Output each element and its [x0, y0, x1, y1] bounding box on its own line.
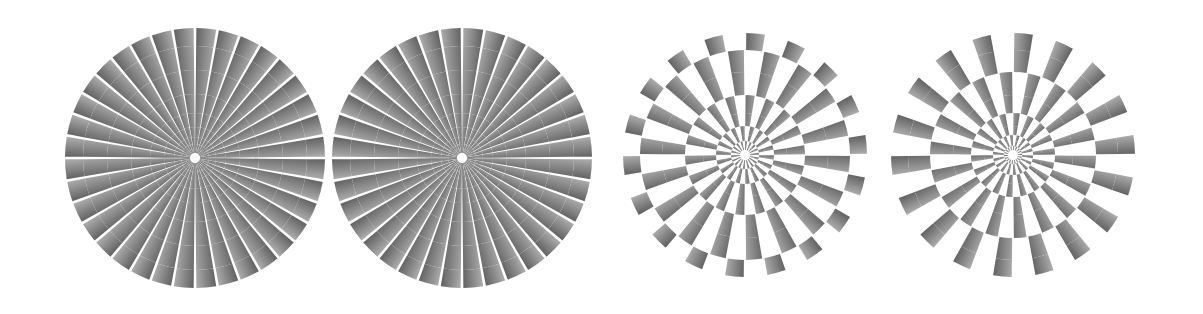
gradient-cell: [1018, 182, 1027, 196]
gradient-cell: [1032, 159, 1042, 165]
gradient-cell: [993, 158, 999, 162]
ring-3: [716, 126, 774, 184]
gradient-cell: [107, 144, 132, 158]
gradient-cell: [1050, 170, 1070, 185]
gradient-cell: [107, 159, 132, 173]
gradient-cell: [573, 159, 592, 179]
gradient-cell: [992, 180, 1002, 194]
gradient-cell: [196, 70, 210, 95]
gradient-cell: [1009, 159, 1012, 163]
gradient-cell: [1021, 150, 1026, 153]
gradient-cell: [1042, 148, 1055, 155]
ring-4: [971, 113, 1055, 197]
gradient-cell: [1008, 163, 1011, 168]
gradient-cell: [785, 163, 804, 175]
gradient-cell: [1012, 160, 1013, 164]
gradient-cell: [760, 99, 775, 119]
gradient-cell: [1072, 156, 1096, 169]
gradient-cell: [737, 157, 741, 160]
gradient-cell: [813, 62, 837, 86]
gradient-cell: [640, 138, 663, 154]
gradient-cell: [1059, 102, 1084, 124]
gradient-cell: [747, 147, 750, 151]
gradient-cell: [1044, 84, 1066, 109]
gradient-cell: [746, 33, 765, 51]
gradient-cell: [1024, 73, 1041, 98]
gradient-cell: [704, 141, 718, 150]
gradient-cell: [985, 212, 1002, 237]
gradient-cell: [306, 159, 325, 179]
gradient-cell: [1028, 177, 1040, 191]
illusion-figure-board: [0, 0, 1203, 314]
gradient-cell: [827, 156, 850, 172]
gradient-cell: [737, 149, 741, 152]
gradient-cell: [448, 70, 462, 95]
gradient-cell: [986, 119, 998, 133]
ring-2: [993, 135, 1033, 175]
gradient-cell: [993, 195, 1005, 214]
gradient-cell: [332, 137, 351, 157]
gradient-cell: [745, 146, 746, 150]
gradient-cell: [974, 165, 988, 175]
illusion-figure-2: [332, 0, 592, 314]
gradient-cell: [1054, 155, 1073, 164]
gradient-cell: [174, 269, 194, 288]
gradient-cell: [999, 72, 1012, 96]
ring-7: [908, 50, 1118, 260]
gradient-cell: [1015, 141, 1018, 146]
gradient-cell: [1020, 146, 1025, 150]
ring-5: [953, 95, 1073, 215]
gradient-cell: [332, 159, 351, 179]
gradient-cell: [999, 157, 1004, 160]
gradient-cell: [1014, 214, 1027, 238]
gradient-cell: [735, 174, 741, 184]
gradient-cell: [755, 116, 765, 130]
gradient-cell: [770, 134, 784, 144]
gradient-cell: [448, 221, 462, 246]
gradient-cell: [374, 144, 399, 158]
gradient-cell: [1014, 160, 1016, 164]
gradient-cell: [998, 140, 1004, 146]
gradient-cell: [703, 155, 716, 162]
gradient-cell: [930, 141, 954, 154]
gradient-cell: [999, 172, 1006, 182]
figure-canvas: [65, 0, 325, 314]
gradient-cell: [739, 147, 742, 151]
gradient-cell: [707, 103, 724, 122]
gradient-cell: [732, 158, 737, 162]
gradient-cell: [1010, 135, 1013, 141]
ring-4: [417, 113, 507, 203]
gradient-cell: [1018, 167, 1023, 174]
gradient-cell: [725, 96, 737, 115]
gradient-cell: [753, 195, 765, 214]
gradient-cell: [971, 155, 984, 162]
gradient-cell: [750, 162, 754, 167]
ring-0: [1004, 146, 1022, 164]
gradient-cell: [1035, 170, 1049, 182]
gradient-cell: [740, 141, 743, 146]
gradient-cell: [706, 165, 720, 175]
gradient-cell: [823, 120, 848, 140]
gradient-cell: [710, 233, 730, 258]
gradient-cell: [441, 28, 461, 47]
gradient-cell: [1020, 128, 1027, 138]
illusion-figure-4: [891, 0, 1135, 314]
gradient-cell: [1010, 146, 1012, 150]
gradient-cell: [1016, 148, 1020, 152]
ring-7: [350, 46, 574, 270]
gradient-cell: [759, 155, 765, 158]
gradient-cell: [1014, 50, 1030, 73]
gradient-cell: [623, 156, 641, 175]
gradient-cell: [625, 114, 646, 135]
gradient-cell: [751, 144, 756, 149]
gradient-cell: [804, 156, 828, 169]
gradient-cell: [736, 143, 740, 148]
gradient-cell: [731, 128, 738, 138]
gradient-cell: [1016, 135, 1020, 141]
gradient-cell: [1011, 141, 1013, 146]
ring-3: [164, 127, 226, 189]
ring-5: [398, 94, 526, 222]
gradient-cell: [83, 159, 108, 176]
gradient-cell: [749, 151, 753, 154]
ring-6: [107, 70, 283, 246]
